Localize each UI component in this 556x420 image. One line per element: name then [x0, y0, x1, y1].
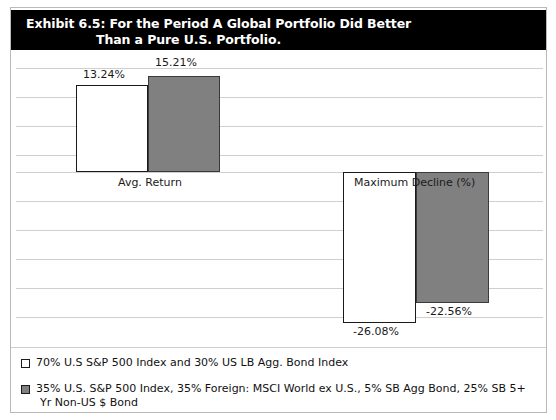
- exhibit-title-line-2: Than a Pure U.S. Portfolio.: [96, 32, 281, 47]
- legend-label-series-2: 35% U.S. S&P 500 Index, 35% Foreign: MSC…: [36, 382, 526, 410]
- value-label-max-decline-series-2: -22.56%: [426, 305, 472, 318]
- exhibit-page: Exhibit 6.5: For the Period A Global Por…: [0, 0, 556, 420]
- legend-item-series-2[interactable]: 35% U.S. S&P 500 Index, 35% Foreign: MSC…: [21, 382, 526, 410]
- category-label-avg-return: Avg. Return: [118, 176, 182, 189]
- bar-max-decline-series-2[interactable]: [416, 172, 489, 303]
- legend-label-series-1: 70% U.S S&P 500 Index and 30% US LB Agg.…: [36, 356, 348, 370]
- bar-avg-return-series-2[interactable]: [148, 76, 220, 172]
- value-label-avg-return-series-1: 13.24%: [83, 68, 125, 81]
- exhibit-title-banner: Exhibit 6.5: For the Period A Global Por…: [11, 10, 546, 50]
- gray-square-swatch-icon: [21, 385, 30, 394]
- bar-avg-return-series-1[interactable]: [76, 85, 148, 172]
- chart-plot-area: 13.24% 15.21% Avg. Return Maximum Declin…: [11, 55, 546, 343]
- value-label-avg-return-series-2: 15.21%: [155, 56, 197, 69]
- white-square-swatch-icon: [21, 359, 30, 368]
- value-label-max-decline-series-1: -26.08%: [353, 325, 399, 338]
- category-label-max-decline: Maximum Decline (%): [354, 176, 475, 189]
- chart-legend: 70% U.S S&P 500 Index and 30% US LB Agg.…: [11, 347, 546, 412]
- legend-item-series-1[interactable]: 70% U.S S&P 500 Index and 30% US LB Agg.…: [21, 356, 348, 370]
- bar-max-decline-series-1[interactable]: [343, 172, 416, 323]
- exhibit-title-line-1: Exhibit 6.5: For the Period A Global Por…: [26, 16, 411, 31]
- legend-label-series-2-line-1: 35% U.S. S&P 500 Index, 35% Foreign: MSC…: [36, 382, 526, 395]
- legend-label-series-2-line-2: Yr Non-US $ Bond: [36, 396, 526, 410]
